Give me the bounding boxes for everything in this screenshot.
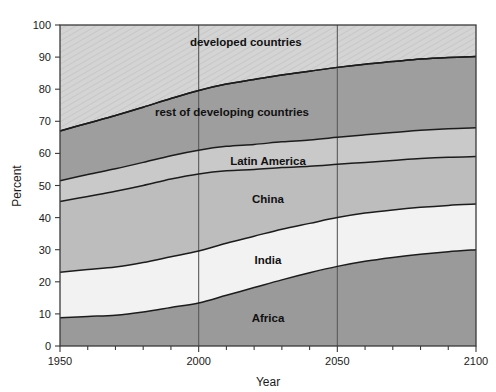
x-tick-label: 2050 [325,355,349,367]
y-tick-label: 70 [39,115,51,127]
chart-svg: 01020304050607080901001950200020502100 A… [0,0,496,392]
y-tick-label: 90 [39,51,51,63]
series-label-china: China [252,193,285,205]
y-tick-label: 50 [39,180,51,192]
y-tick-label: 10 [39,308,51,320]
stacked-area-chart: 01020304050607080901001950200020502100 A… [0,0,496,392]
y-tick-label: 20 [39,276,51,288]
chart-root: 01020304050607080901001950200020502100 A… [0,0,496,392]
series-label-latin-america: Latin America [230,155,306,167]
y-tick-label: 0 [45,340,51,352]
y-tick-label: 80 [39,83,51,95]
series-label-india: India [255,254,282,266]
series-label-rest-of-developing-countries: rest of developing countries [155,106,309,118]
y-tick-label: 60 [39,147,51,159]
y-axis-title: Percent [10,165,24,207]
area-series-group [60,25,476,346]
y-tick-label: 100 [33,19,51,31]
x-tick-label: 2100 [464,355,488,367]
series-label-developed-countries: developed countries [190,36,302,48]
x-axis-title: Year [256,375,280,389]
y-tick-label: 40 [39,212,51,224]
y-tick-label: 30 [39,244,51,256]
x-tick-label: 2000 [186,355,210,367]
series-label-africa: Africa [252,312,285,324]
x-tick-label: 1950 [48,355,72,367]
